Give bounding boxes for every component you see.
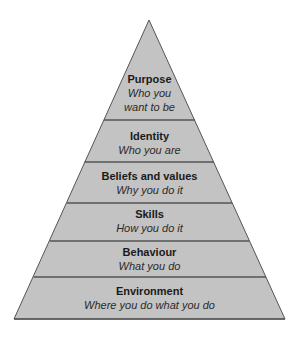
- level-title: Identity: [0, 129, 299, 143]
- level-title: Behaviour: [0, 245, 299, 259]
- level-subtitle: want to be: [0, 100, 299, 114]
- level-title: Skills: [0, 207, 299, 221]
- level-title: Environment: [0, 284, 299, 298]
- level-skills: Skills How you do it: [0, 207, 299, 235]
- level-purpose: Purpose Who you want to be: [0, 72, 299, 114]
- level-subtitle: Who you: [0, 86, 299, 100]
- level-title: Beliefs and values: [0, 169, 299, 183]
- level-subtitle: Why you do it: [0, 183, 299, 197]
- level-beliefs-values: Beliefs and values Why you do it: [0, 169, 299, 197]
- level-behaviour: Behaviour What you do: [0, 245, 299, 273]
- level-subtitle: Where you do what you do: [0, 298, 299, 312]
- level-subtitle: Who you are: [0, 143, 299, 157]
- level-subtitle: What you do: [0, 259, 299, 273]
- level-environment: Environment Where you do what you do: [0, 284, 299, 312]
- level-title: Purpose: [0, 72, 299, 86]
- level-subtitle: How you do it: [0, 221, 299, 235]
- level-identity: Identity Who you are: [0, 129, 299, 157]
